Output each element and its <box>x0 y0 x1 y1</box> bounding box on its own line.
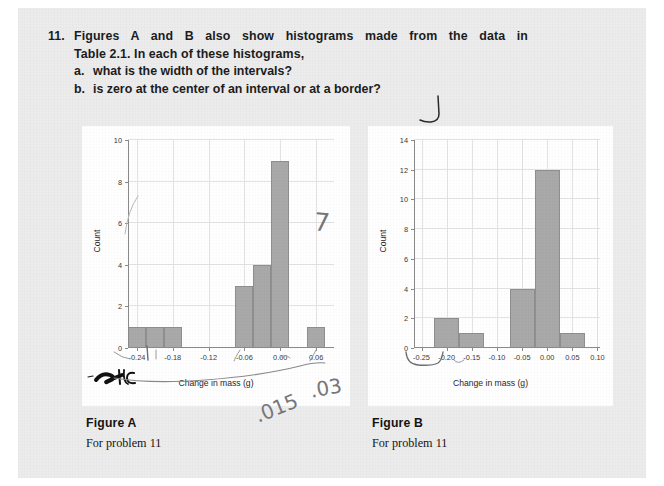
question-sub-b: b. is zero at the center of an interval … <box>74 81 528 99</box>
sub-a-text: what is the width of the intervals? <box>93 63 292 81</box>
figure-a-panel: Count Change in mass (g) -0.24-0.18-0.12… <box>82 126 350 406</box>
y-tick-mark <box>125 140 128 141</box>
question-line-1: 11. Figures A and B also show histograms… <box>48 28 528 63</box>
gridline-horizontal <box>128 222 334 223</box>
figure-b-chart: Count Change in mass (g) -0.25-0.20-0.15… <box>368 126 613 406</box>
sub-a-letter: a. <box>74 63 93 81</box>
x-tick-mark <box>472 348 473 351</box>
x-tick-label: 0.00 <box>273 353 287 362</box>
gridline-vertical <box>597 140 598 348</box>
x-tick-label: -0.25 <box>413 353 430 362</box>
y-tick-mark <box>125 306 128 307</box>
gridline-vertical <box>472 140 473 348</box>
histogram-bar <box>253 265 271 348</box>
figure-b-plot-area <box>414 140 600 348</box>
histogram-bar <box>434 318 459 348</box>
gridline-vertical <box>497 140 498 348</box>
x-tick-label: -0.12 <box>200 353 217 362</box>
x-tick-label: 0.05 <box>565 353 579 362</box>
x-axis-line <box>128 347 334 348</box>
y-tick-label: 6 <box>386 254 408 263</box>
histogram-bar <box>235 286 253 348</box>
x-tick-mark <box>316 348 317 351</box>
figure-a-caption: Figure A For problem 11 <box>86 416 161 451</box>
figure-b-caption: Figure B For problem 11 <box>372 416 447 451</box>
y-tick-label: 10 <box>100 136 122 145</box>
y-tick-label: 8 <box>100 177 122 186</box>
histogram-bar <box>459 333 484 348</box>
histogram-bar <box>307 327 325 348</box>
y-tick-mark <box>125 182 128 183</box>
y-tick-label: 2 <box>100 302 122 311</box>
histogram-bar <box>535 170 560 348</box>
figure-b-caption-sub: For problem 11 <box>372 436 447 451</box>
y-tick-mark <box>411 199 414 200</box>
histogram-bar <box>271 161 289 348</box>
y-axis-line <box>128 140 129 348</box>
x-tick-label: 0.00 <box>540 353 554 362</box>
question-sub-a: a. what is the width of the intervals? <box>74 63 528 81</box>
y-tick-label: 8 <box>386 225 408 234</box>
figure-b-xlabel: Change in mass (g) <box>368 378 613 388</box>
x-tick-mark <box>572 348 573 351</box>
x-tick-label: -0.15 <box>463 353 480 362</box>
gridline-vertical <box>209 140 210 348</box>
y-tick-label: 12 <box>386 165 408 174</box>
y-tick-label: 4 <box>100 260 122 269</box>
gridline-horizontal <box>128 305 334 306</box>
question-text-line1: Figures A and B also show histograms mad… <box>74 28 528 46</box>
gridline-vertical <box>422 140 423 348</box>
x-tick-mark <box>137 348 138 351</box>
figure-a-chart: Count Change in mass (g) -0.24-0.18-0.12… <box>82 126 350 406</box>
y-tick-mark <box>411 170 414 171</box>
x-tick-mark <box>244 348 245 351</box>
y-tick-mark <box>125 223 128 224</box>
x-tick-mark <box>497 348 498 351</box>
y-tick-mark <box>125 265 128 266</box>
figure-a-caption-sub: For problem 11 <box>86 436 161 451</box>
y-tick-label: 14 <box>386 136 408 145</box>
x-tick-label: -0.24 <box>129 353 146 362</box>
gridline-vertical <box>572 140 573 348</box>
x-tick-label: 0.10 <box>590 353 604 362</box>
handwritten-bracket-mark <box>416 94 456 128</box>
histogram-bar <box>128 327 146 348</box>
figure-a-caption-title: Figure A <box>86 416 161 430</box>
x-tick-mark <box>547 348 548 351</box>
x-tick-mark <box>422 348 423 351</box>
x-tick-label: 0.06 <box>309 353 323 362</box>
figure-a-plot-area <box>128 140 334 348</box>
y-axis-line <box>414 140 415 348</box>
y-tick-label: 2 <box>386 314 408 323</box>
y-tick-mark <box>411 259 414 260</box>
question-text-line2: Table 2.1. In each of these histograms, <box>74 46 528 64</box>
x-tick-mark <box>597 348 598 351</box>
gridline-vertical <box>173 140 174 348</box>
y-tick-mark <box>411 318 414 319</box>
gridline-horizontal <box>128 139 334 140</box>
x-tick-label: -0.20 <box>438 353 455 362</box>
x-tick-label: -0.05 <box>514 353 531 362</box>
handwritten-seven-mark: 7 <box>313 207 331 237</box>
sub-b-letter: b. <box>74 81 93 99</box>
y-tick-mark <box>411 289 414 290</box>
y-tick-mark <box>411 229 414 230</box>
histogram-bar <box>164 327 182 348</box>
gridline-vertical <box>137 140 138 348</box>
x-tick-label: -0.06 <box>236 353 253 362</box>
sub-b-text: is zero at the center of an interval or … <box>93 81 381 99</box>
y-tick-label: 0 <box>386 344 408 353</box>
x-tick-label: -0.18 <box>164 353 181 362</box>
gridline-vertical <box>316 140 317 348</box>
y-tick-label: 10 <box>386 195 408 204</box>
x-tick-mark <box>522 348 523 351</box>
figure-b-caption-title: Figure B <box>372 416 447 430</box>
histogram-bar <box>510 289 535 348</box>
x-tick-mark <box>280 348 281 351</box>
gridline-horizontal <box>128 264 334 265</box>
y-tick-label: 0 <box>100 344 122 353</box>
y-tick-label: 6 <box>100 219 122 228</box>
y-tick-mark <box>125 348 128 349</box>
x-tick-mark <box>173 348 174 351</box>
x-tick-mark <box>209 348 210 351</box>
